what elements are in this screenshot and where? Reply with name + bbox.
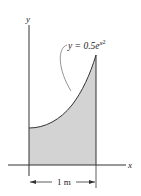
x-axis-label: x (127, 160, 132, 170)
curve-equation-label: y = 0.5ex2 (67, 39, 106, 51)
dimension-arrow-left (30, 180, 36, 184)
y-axis-label: y (25, 14, 30, 24)
dimension-arrow-right (89, 180, 95, 184)
equation-prefix: y = 0.5 (67, 41, 96, 51)
dimension-label: 1 m (57, 177, 71, 187)
diagram-canvas: y x y = 0.5ex2 1 m (0, 0, 141, 196)
leader-line (60, 45, 71, 91)
equation-exponent-power: 2 (103, 39, 106, 45)
